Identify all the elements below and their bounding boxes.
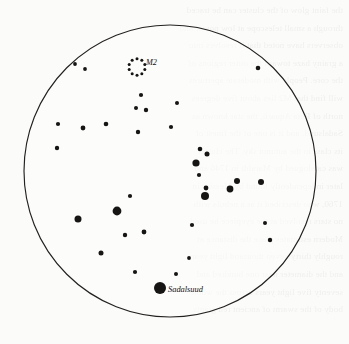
star-marker	[205, 152, 210, 157]
star-marker	[187, 256, 191, 260]
star-marker	[144, 108, 148, 112]
star-marker	[234, 178, 240, 184]
star-label: Sadalsuud	[168, 285, 204, 294]
cluster-symbol-dot	[136, 57, 139, 60]
star-marker	[169, 125, 173, 129]
star-marker	[56, 122, 60, 126]
star-marker	[175, 101, 179, 105]
star-marker	[142, 230, 147, 235]
star-marker	[197, 173, 201, 177]
star-marker	[268, 238, 272, 242]
star-marker	[190, 223, 194, 227]
star-marker	[154, 282, 166, 294]
cluster-symbol-dot	[131, 72, 134, 75]
star-marker	[133, 270, 137, 274]
cluster-symbol-dot	[136, 74, 139, 77]
star-marker	[192, 159, 199, 166]
cluster-symbol-dot	[128, 63, 131, 66]
star-marker	[75, 216, 82, 223]
star-marker	[258, 179, 264, 185]
star-marker	[204, 186, 209, 191]
star-marker	[123, 233, 127, 237]
cluster-symbol-dot	[140, 59, 143, 62]
star-marker	[134, 106, 138, 110]
cluster-symbol-dot	[143, 68, 146, 71]
star-marker	[55, 146, 59, 150]
star-marker	[136, 130, 140, 134]
star-marker	[73, 62, 77, 66]
star-marker	[113, 207, 122, 216]
star-chart-figure: the faint glow of the cluster can be tra…	[0, 0, 349, 344]
deep-sky-object-label: M2	[145, 58, 157, 67]
star-marker	[83, 67, 87, 71]
star-marker	[227, 186, 234, 193]
cluster-symbol-dot	[128, 68, 131, 71]
star-marker	[139, 93, 143, 97]
star-marker	[256, 66, 261, 71]
cluster-symbol-dot	[131, 59, 134, 62]
star-marker	[128, 194, 132, 198]
star-marker	[174, 272, 178, 276]
field-of-view-circle	[24, 25, 316, 317]
star-marker	[263, 221, 267, 225]
star-marker	[201, 192, 209, 200]
star-marker	[104, 122, 109, 127]
star-marker	[81, 126, 86, 131]
star-marker	[99, 251, 104, 256]
star-marker	[198, 147, 203, 152]
sky-field-svg: SadalsuudM2	[0, 0, 349, 344]
cluster-symbol-dot	[140, 72, 143, 75]
